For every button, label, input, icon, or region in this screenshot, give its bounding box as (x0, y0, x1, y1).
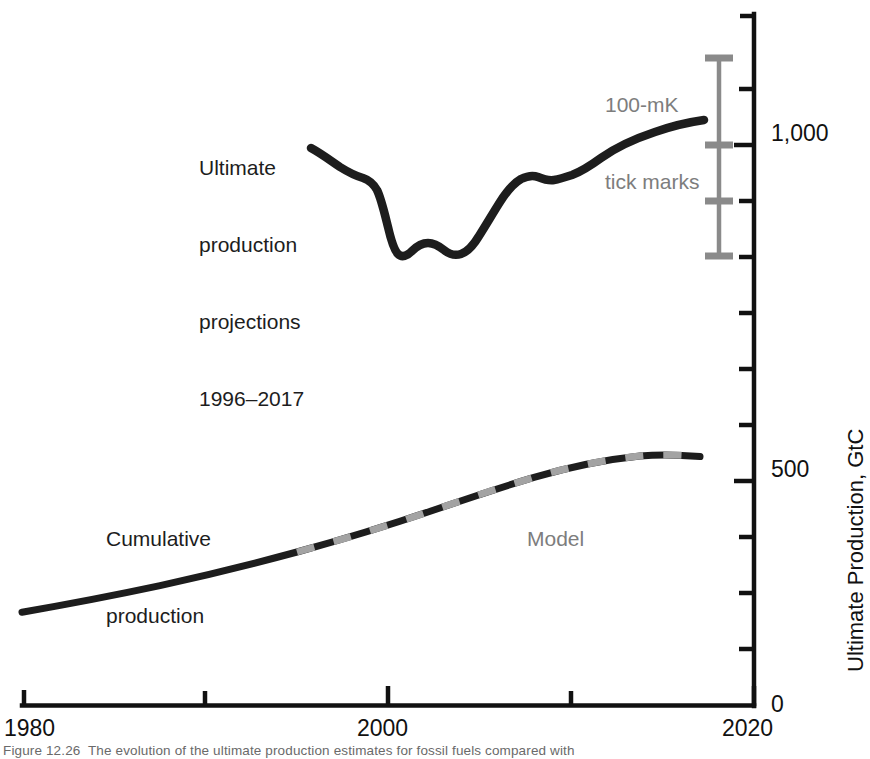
y-tick-label-1000: 1,000 (771, 119, 829, 147)
y-tick-label-500: 500 (771, 455, 809, 483)
x-tick-label-2000: 2000 (357, 714, 408, 742)
annotation-tickmarks: 100-mK tick marks (605, 41, 700, 246)
annotation-tickmarks-line1: 100-mK (605, 92, 700, 118)
annotation-ultimate-projections-line1: Ultimate (199, 155, 304, 181)
annotation-cumulative-production: Cumulative production (106, 475, 211, 680)
annotation-ultimate-projections-line4: 1996–2017 (199, 386, 304, 412)
y-axis-title: Ultimate Production, GtC (843, 429, 870, 672)
errorbar-100mk (705, 58, 733, 256)
annotation-ultimate-projections-line2: production (199, 232, 304, 258)
x-tick-label-1980: 1980 (4, 714, 55, 742)
annotation-cumulative-production-line1: Cumulative (106, 526, 211, 552)
annotation-ultimate-projections: Ultimate production projections 1996–201… (199, 104, 304, 463)
y-axis-ticks (734, 89, 754, 649)
annotation-model: Model (527, 526, 584, 552)
x-tick-label-2020: 2020 (722, 714, 773, 742)
figure-caption: Figure 12.26 The evolution of the ultima… (3, 743, 859, 759)
annotation-ultimate-projections-line3: projections (199, 309, 304, 335)
x-axis-ticks (205, 686, 754, 706)
annotation-cumulative-production-line2: production (106, 603, 211, 629)
annotation-tickmarks-line2: tick marks (605, 169, 700, 195)
